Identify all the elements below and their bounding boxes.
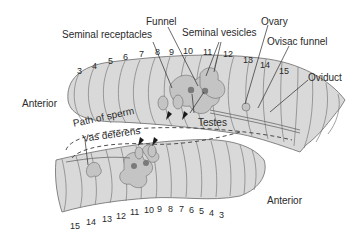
bottom-seg-6: 6 <box>189 206 194 215</box>
top-seg-7: 7 <box>139 50 144 59</box>
earthworm-diagram: Seminal receptacles Funnel Seminal vesic… <box>0 0 359 237</box>
top-seg-9: 9 <box>169 48 174 57</box>
bottom-seg-7: 7 <box>179 205 184 214</box>
bottom-seg-14: 14 <box>86 218 96 227</box>
bottom-seg-4: 4 <box>209 209 214 218</box>
label-seminal-vesicles: Seminal vesicles <box>182 28 256 38</box>
top-seg-14: 14 <box>260 61 270 70</box>
top-seg-10: 10 <box>183 47 193 56</box>
bottom-seg-5: 5 <box>199 207 204 216</box>
label-ovary: Ovary <box>261 17 288 27</box>
top-seg-11: 11 <box>203 48 212 57</box>
top-seg-15: 15 <box>279 67 289 76</box>
bottom-seg-13: 13 <box>102 215 112 224</box>
label-anterior-bottom: Anterior <box>267 196 302 206</box>
label-anterior-top: Anterior <box>22 99 57 109</box>
bottom-seg-3: 3 <box>219 211 224 220</box>
top-seg-3: 3 <box>77 67 82 76</box>
bottom-seg-15: 15 <box>70 222 80 231</box>
top-seg-6: 6 <box>123 53 128 62</box>
top-seg-13: 13 <box>243 56 253 65</box>
label-oviduct: Oviduct <box>308 73 342 83</box>
bottom-seg-8: 8 <box>168 205 173 214</box>
top-seg-8: 8 <box>155 48 160 57</box>
bottom-seg-11: 11 <box>130 208 139 217</box>
bottom-seg-12: 12 <box>116 212 126 221</box>
top-seg-12: 12 <box>223 50 233 59</box>
bottom-worm <box>55 140 265 212</box>
top-seg-5: 5 <box>108 57 113 66</box>
label-ovisac-funnel: Ovisac funnel <box>267 37 328 47</box>
label-seminal-receptacles: Seminal receptacles <box>62 30 152 40</box>
top-seg-4: 4 <box>92 62 97 71</box>
label-testes: Testes <box>198 118 227 128</box>
bottom-seg-9: 9 <box>157 205 162 214</box>
bottom-seg-10: 10 <box>144 206 154 215</box>
label-funnel: Funnel <box>146 17 177 27</box>
